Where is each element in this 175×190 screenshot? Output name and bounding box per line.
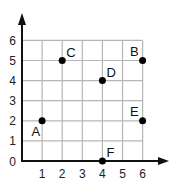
x-tick-labels: 123456 xyxy=(39,167,147,181)
x-tick-label: 5 xyxy=(119,167,126,181)
y-tick-label: 5 xyxy=(9,54,16,68)
point-marker xyxy=(139,117,146,124)
y-tick-label: 6 xyxy=(9,34,16,48)
y-axis-arrow-icon xyxy=(18,13,26,25)
y-tick-label: 3 xyxy=(9,94,16,108)
y-tick-label: 0 xyxy=(9,155,16,169)
x-axis-arrow-icon xyxy=(158,157,169,165)
x-tick-label: 4 xyxy=(99,167,106,181)
point-label: D xyxy=(106,65,115,80)
x-tick-label: 1 xyxy=(39,167,46,181)
coordinate-grid-chart: 123456 0123456 ABCDEF xyxy=(0,0,175,190)
point-marker xyxy=(99,77,106,84)
y-tick-label: 2 xyxy=(9,114,16,128)
point-label: F xyxy=(106,145,114,160)
point-marker xyxy=(99,158,106,165)
y-tick-label: 1 xyxy=(9,134,16,148)
x-tick-label: 3 xyxy=(79,167,86,181)
point-label: E xyxy=(130,104,139,119)
point-label: C xyxy=(66,45,75,60)
y-tick-labels: 0123456 xyxy=(9,34,16,169)
point-marker xyxy=(139,57,146,64)
point-label: A xyxy=(31,124,40,139)
x-tick-label: 6 xyxy=(139,167,146,181)
point-marker xyxy=(59,57,66,64)
point-label: B xyxy=(130,44,139,59)
data-points: ABCDEF xyxy=(31,44,146,165)
y-tick-label: 4 xyxy=(9,74,16,88)
grid-lines xyxy=(22,40,143,161)
x-tick-label: 2 xyxy=(59,167,66,181)
axes xyxy=(18,13,169,165)
